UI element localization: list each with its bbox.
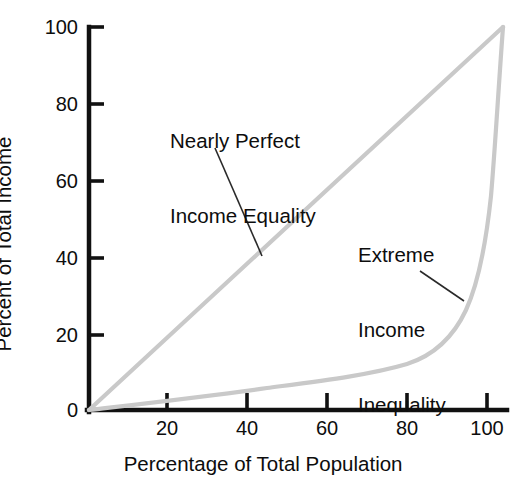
y-tick-label-0: 0 [67, 399, 78, 422]
x-tick-label-20: 20 [156, 417, 178, 440]
y-tick-label-20: 20 [56, 324, 78, 347]
x-tick-label-60: 60 [316, 417, 338, 440]
annotation-equality-line1: Nearly Perfect [170, 128, 316, 153]
annotation-nearly-perfect-income-equality: Nearly Perfect Income Equality [170, 78, 316, 278]
x-tick-label-100: 100 [470, 417, 503, 440]
x-tick-label-40: 40 [236, 417, 258, 440]
annotation-inequality-line2: Income [358, 317, 446, 342]
y-axis-title-text: Percent of Total Income [0, 136, 16, 351]
y-tick-label-80: 80 [56, 93, 78, 116]
y-tick-label-100: 100 [45, 16, 78, 39]
y-tick-label-40: 40 [56, 247, 78, 270]
lorenz-curve-figure: 100 80 60 40 20 0 20 40 60 80 100 Percen… [0, 0, 515, 487]
y-tick-label-60: 60 [56, 170, 78, 193]
y-axis-title: Percent of Total Income [0, 29, 16, 244]
annotation-inequality-line3: Inequality [358, 392, 446, 417]
annotation-extreme-income-inequality: Extreme Income Inequality [358, 192, 446, 467]
annotation-equality-line2: Income Equality [170, 203, 316, 228]
annotation-inequality-line1: Extreme [358, 242, 446, 267]
